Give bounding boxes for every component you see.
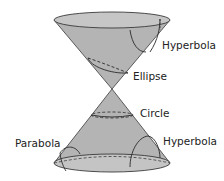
double-cone-diagram	[0, 0, 224, 181]
label-ellipse: Ellipse	[133, 71, 167, 82]
label-hyperbola-top: Hyperbola	[162, 40, 216, 51]
label-parabola: Parabola	[15, 138, 61, 149]
label-hyperbola-bottom: Hyperbola	[163, 136, 217, 147]
label-circle: Circle	[140, 108, 170, 119]
lower-cone	[54, 89, 170, 172]
